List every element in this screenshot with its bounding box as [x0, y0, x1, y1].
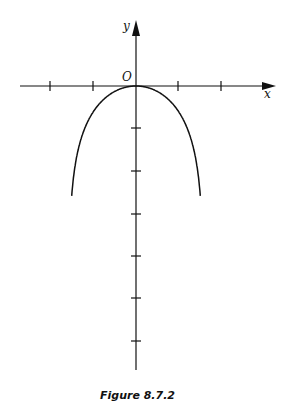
x-axis-label: x [264, 87, 271, 101]
figure-graph: y x O Figure 8.7.2 [0, 0, 285, 405]
y-axis-label: y [122, 19, 130, 33]
origin-label: O [122, 70, 132, 84]
figure-caption: Figure 8.7.2 [100, 389, 175, 402]
y-axis-arrow-icon [132, 20, 140, 36]
